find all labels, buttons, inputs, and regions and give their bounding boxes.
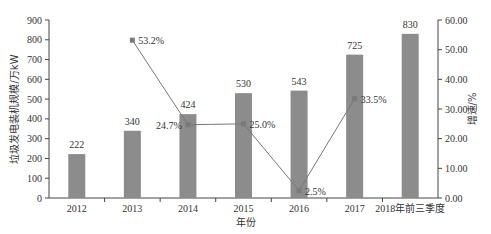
x-tick-label: 2013 (122, 203, 142, 214)
right-y-tick-label: 10.00 (445, 163, 468, 174)
left-y-tick-label: 900 (27, 15, 42, 26)
left-y-tick-label: 700 (27, 54, 42, 65)
bar-value-label: 530 (236, 78, 251, 89)
right-y-tick-label: 50.00 (445, 44, 468, 55)
left-y-tick-label: 400 (27, 113, 42, 124)
bar-value-label: 543 (292, 76, 307, 87)
x-tick-label: 2017 (345, 203, 365, 214)
line-value-label: 2.5% (305, 186, 326, 197)
right-y-tick-label: 20.00 (445, 133, 468, 144)
left-y-tick-label: 800 (27, 34, 42, 45)
right-y-tick-label: 60.00 (445, 15, 468, 26)
line-marker (297, 188, 302, 193)
line-value-label: 25.0% (250, 119, 276, 130)
left-y-tick-label: 300 (27, 133, 42, 144)
x-axis-title: 年份 (236, 216, 256, 228)
chart: 01002003004005006007008009000.0010.0020.… (0, 0, 491, 234)
right-y-axis: 0.0010.0020.0030.0040.0050.0060.00 (438, 15, 468, 204)
left-y-tick-label: 0 (37, 193, 42, 204)
line-value-label: 53.2% (138, 35, 164, 46)
line-value-label: 24.7% (156, 120, 182, 131)
right-y-tick-label: 0.00 (445, 193, 463, 204)
bar-value-label: 725 (347, 40, 362, 51)
bar (235, 93, 252, 198)
left-y-axis: 0100200300400500600700800900 (27, 15, 49, 204)
x-tick-label: 2016 (289, 203, 309, 214)
bar-value-label: 424 (180, 99, 195, 110)
x-tick-label: 2015 (234, 203, 254, 214)
bar (402, 34, 419, 198)
bar-value-label: 340 (125, 116, 140, 127)
bar-value-label: 830 (403, 19, 418, 30)
bar (68, 154, 85, 198)
x-tick-label: 2012 (67, 203, 87, 214)
left-y-tick-label: 100 (27, 173, 42, 184)
x-tick-label: 2018年前三季度 (375, 202, 445, 214)
left-y-tick-label: 200 (27, 153, 42, 164)
left-y-tick-label: 600 (27, 74, 42, 85)
line-value-label: 33.5% (361, 94, 387, 105)
left-y-tick-label: 500 (27, 94, 42, 105)
left-y-axis-title: 垃圾发电装机规模/万kW (8, 54, 20, 163)
line-marker (241, 121, 246, 126)
x-tick-label: 2014 (178, 203, 198, 214)
bar (291, 91, 308, 198)
x-axis: 2012201320142015201620172018年前三季度 (49, 198, 445, 214)
right-y-tick-label: 40.00 (445, 74, 468, 85)
bar (346, 55, 363, 198)
line-marker (352, 96, 357, 101)
bar-series: 222340424530543725830 (68, 19, 418, 198)
bar-value-label: 222 (69, 139, 84, 150)
line-marker (130, 38, 135, 43)
line-marker (185, 122, 190, 127)
bar (124, 131, 141, 198)
right-y-axis-title: 增速/% (466, 93, 478, 126)
right-y-tick-label: 30.00 (445, 104, 468, 115)
